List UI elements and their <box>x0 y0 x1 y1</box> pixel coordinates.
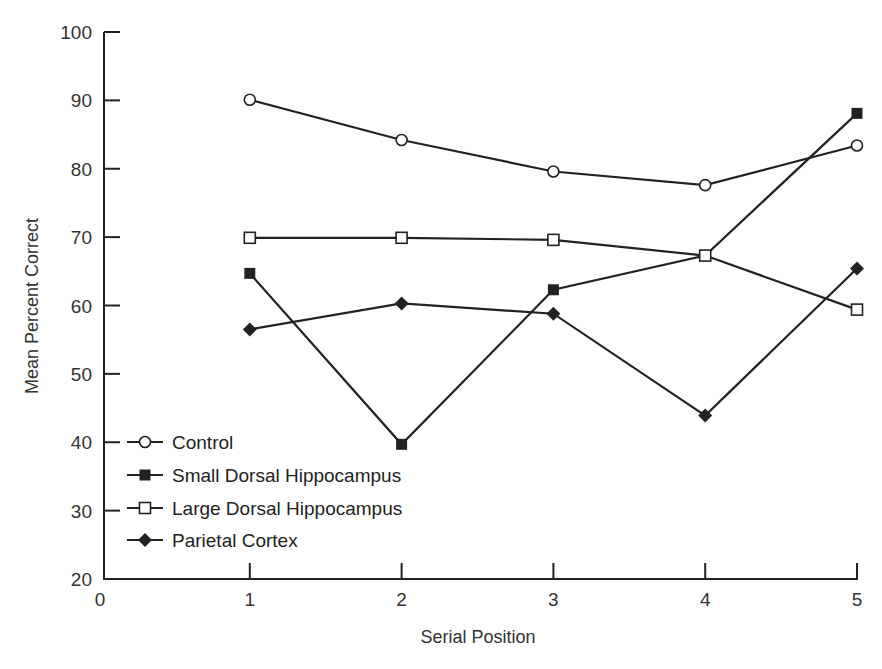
legend-item: Small Dorsal Hippocampus <box>127 465 401 486</box>
open-circle-marker <box>396 135 407 146</box>
y-tick-label: 20 <box>71 569 92 590</box>
open-square-marker <box>700 250 711 261</box>
open-circle-marker <box>548 166 559 177</box>
y-tick-label: 60 <box>71 296 92 317</box>
filled-square-marker <box>244 268 255 279</box>
open-square-marker <box>548 234 559 245</box>
x-tick-label: 3 <box>548 589 559 610</box>
x-tick-label: 4 <box>700 589 711 610</box>
x-tick-label: 0 <box>95 589 106 610</box>
open-square-marker <box>140 503 151 514</box>
legend-label: Control <box>172 432 233 453</box>
legend-item: Large Dorsal Hippocampus <box>127 498 402 519</box>
x-tick-label: 1 <box>245 589 256 610</box>
series-line <box>250 238 857 310</box>
legend: ControlSmall Dorsal HippocampusLarge Dor… <box>127 432 402 551</box>
series-control <box>244 94 862 190</box>
x-tick-label: 5 <box>852 589 863 610</box>
open-circle-marker <box>852 140 863 151</box>
legend-item: Parietal Cortex <box>127 530 298 551</box>
open-square-marker <box>396 232 407 243</box>
y-tick-label: 30 <box>71 501 92 522</box>
legend-label: Small Dorsal Hippocampus <box>172 465 401 486</box>
filled-diamond-marker <box>395 296 409 310</box>
filled-square-marker <box>140 470 151 481</box>
y-tick-label: 50 <box>71 364 92 385</box>
y-axis-title: Mean Percent Correct <box>22 218 42 394</box>
data-series <box>243 94 864 450</box>
y-tick-label: 90 <box>71 90 92 111</box>
open-square-marker <box>244 232 255 243</box>
x-axis-ticks: 012345 <box>95 563 863 610</box>
x-axis-title: Serial Position <box>420 627 535 647</box>
line-chart: 2030405060708090100 012345 Mean Percent … <box>0 0 882 669</box>
y-tick-label: 100 <box>60 22 92 43</box>
open-circle-marker <box>244 94 255 105</box>
series-large-dorsal-hippocampus <box>244 232 862 315</box>
filled-diamond-marker <box>546 307 560 321</box>
filled-diamond-marker <box>243 322 257 336</box>
filled-diamond-marker <box>138 533 152 547</box>
y-tick-label: 80 <box>71 159 92 180</box>
filled-square-marker <box>396 439 407 450</box>
y-axis-ticks: 2030405060708090100 <box>60 22 120 590</box>
open-circle-marker <box>700 180 711 191</box>
open-square-marker <box>852 304 863 315</box>
y-tick-label: 70 <box>71 227 92 248</box>
open-circle-marker <box>140 437 151 448</box>
legend-label: Parietal Cortex <box>172 530 298 551</box>
axes <box>103 32 858 579</box>
legend-label: Large Dorsal Hippocampus <box>172 498 402 519</box>
x-tick-label: 2 <box>396 589 407 610</box>
y-tick-label: 40 <box>71 432 92 453</box>
legend-item: Control <box>127 432 233 453</box>
series-line <box>250 113 857 444</box>
filled-square-marker <box>852 108 863 119</box>
filled-square-marker <box>548 284 559 295</box>
